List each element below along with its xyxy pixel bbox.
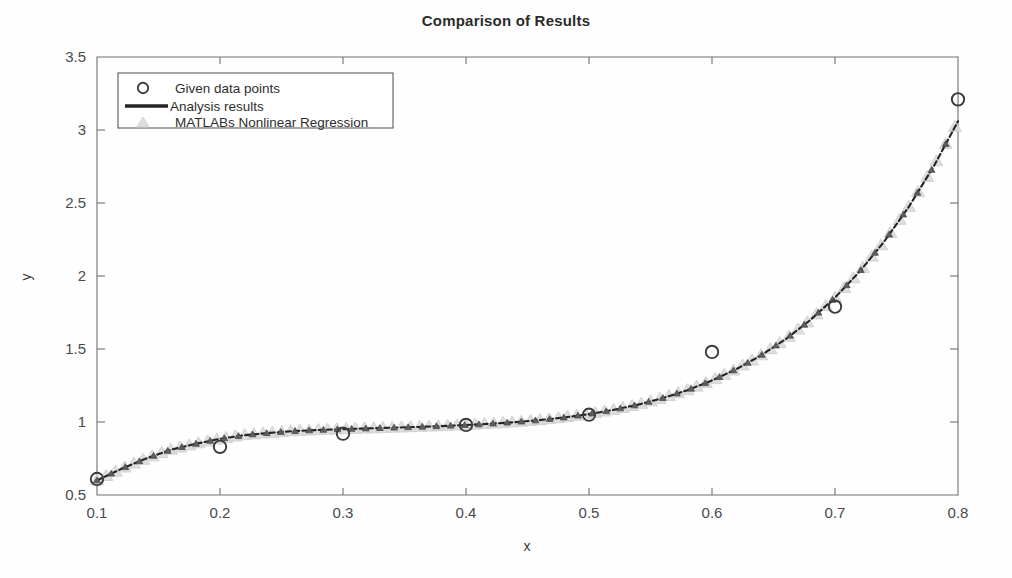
y-tick-label: 2 (78, 267, 86, 284)
x-tick-label: 0.1 (87, 504, 108, 521)
x-tick-label: 0.3 (333, 504, 354, 521)
y-axis-title: y (18, 274, 34, 281)
chart-plot-area: 0.10.20.30.40.50.60.70.8 0.511.522.533.5… (0, 0, 1012, 578)
x-tick-label: 0.2 (210, 504, 231, 521)
analysis-curve-marker (928, 167, 935, 173)
y-axis-tick-labels: 0.511.522.533.5 (65, 48, 86, 503)
x-tick-label: 0.8 (948, 504, 969, 521)
figure-canvas: Comparison of Results 0.10.20.30.40.50.6… (0, 0, 1012, 578)
x-tick-label: 0.4 (456, 504, 477, 521)
y-tick-label: 3.5 (65, 48, 86, 65)
x-tick-label: 0.5 (579, 504, 600, 521)
x-tick-label: 0.7 (825, 504, 846, 521)
legend-label-given: Given data points (175, 81, 280, 96)
legend-label-analysis: Analysis results (170, 99, 264, 114)
x-axis-tick-labels: 0.10.20.30.40.50.60.70.8 (87, 504, 969, 521)
y-tick-label: 1 (78, 413, 86, 430)
x-tick-label: 0.6 (702, 504, 723, 521)
y-tick-label: 3 (78, 121, 86, 138)
y-axis-ticks (97, 130, 958, 422)
given-data-point-marker (706, 346, 718, 358)
y-tick-label: 0.5 (65, 486, 86, 503)
legend[interactable]: Given data points Analysis results MATLA… (118, 73, 393, 130)
x-axis-title: x (524, 538, 531, 554)
y-tick-label: 1.5 (65, 340, 86, 357)
y-tick-label: 2.5 (65, 194, 86, 211)
legend-label-matlab: MATLABs Nonlinear Regression (175, 115, 368, 130)
